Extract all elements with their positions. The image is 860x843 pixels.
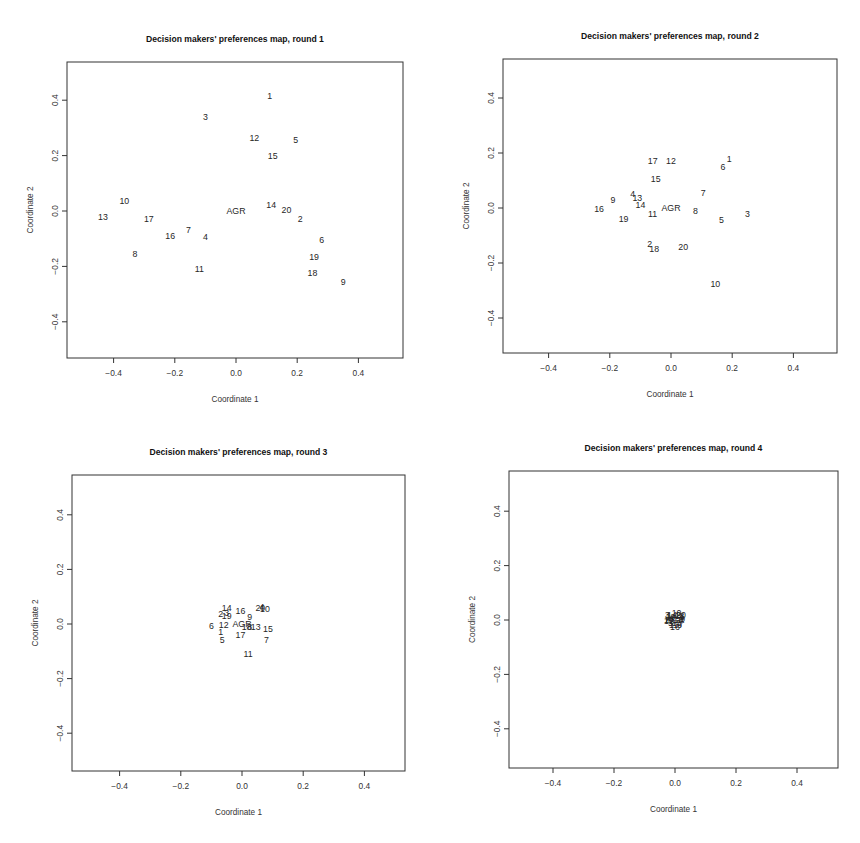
y-tick-label: −0.4 bbox=[492, 720, 502, 737]
x-tick-label: 0.4 bbox=[788, 363, 800, 373]
decision-maker-point-label: 6 bbox=[721, 162, 726, 172]
x-tick-label: −0.2 bbox=[173, 781, 190, 791]
y-axis-label: Coordinate 2 bbox=[468, 596, 477, 643]
y-tick-label: 0.4 bbox=[486, 92, 496, 104]
decision-maker-point-label: 19 bbox=[666, 612, 676, 622]
x-tick-label: 0.0 bbox=[230, 368, 242, 378]
y-axis-label: Coordinate 2 bbox=[31, 599, 40, 646]
x-axis-label: Coordinate 1 bbox=[215, 808, 262, 817]
decision-maker-point-label: 17 bbox=[236, 630, 246, 640]
decision-maker-point-label: 9 bbox=[610, 195, 615, 205]
decision-maker-point-label: 3 bbox=[745, 209, 750, 219]
y-tick-label: −0.2 bbox=[492, 666, 502, 683]
scatter-plot-round3: Decision makers' preferences map, round … bbox=[0, 420, 430, 843]
y-tick-label: 0.4 bbox=[50, 94, 60, 106]
x-tick-label: 0.2 bbox=[726, 363, 738, 373]
decision-maker-point-label: 4 bbox=[203, 232, 208, 242]
y-axis-label: Coordinate 2 bbox=[26, 186, 35, 233]
decision-maker-point-label: 16 bbox=[165, 231, 175, 241]
x-tick-label: −0.2 bbox=[602, 363, 619, 373]
decision-maker-point-label: 16 bbox=[594, 204, 604, 214]
y-tick-label: 0.2 bbox=[486, 147, 496, 159]
decision-maker-point-label: 1 bbox=[727, 154, 732, 164]
x-tick-label: 0.2 bbox=[297, 781, 309, 791]
decision-maker-point-label: 19 bbox=[309, 252, 319, 262]
x-tick-label: 0.2 bbox=[291, 368, 303, 378]
decision-maker-point-label: 6 bbox=[319, 235, 324, 245]
decision-maker-point-label: 5 bbox=[719, 215, 724, 225]
x-tick-label: −0.4 bbox=[545, 778, 562, 788]
decision-maker-point-label: 12 bbox=[249, 133, 259, 143]
decision-maker-point-label: 18 bbox=[649, 244, 659, 254]
x-tick-label: −0.4 bbox=[540, 363, 557, 373]
chart-panel-round3: Decision makers' preferences map, round … bbox=[0, 420, 430, 843]
aggregate-point-label: AGR bbox=[226, 206, 245, 216]
x-axis-label: Coordinate 1 bbox=[212, 395, 259, 404]
decision-maker-point-label: 5 bbox=[293, 135, 298, 145]
aggregate-point-label: AGR bbox=[661, 203, 680, 213]
decision-maker-point-label: 1 bbox=[267, 91, 272, 101]
decision-maker-point-label: 11 bbox=[195, 264, 204, 274]
x-tick-label: 0.4 bbox=[359, 781, 371, 791]
decision-maker-point-label: 15 bbox=[651, 174, 661, 184]
y-tick-label: −0.4 bbox=[50, 313, 60, 330]
decision-maker-point-label: 11 bbox=[244, 649, 253, 659]
decision-maker-point-label: 7 bbox=[264, 635, 269, 645]
decision-maker-point-label: 20 bbox=[678, 242, 688, 252]
x-tick-label: 0.2 bbox=[730, 778, 742, 788]
y-tick-label: −0.2 bbox=[50, 258, 60, 275]
y-axis-label: Coordinate 2 bbox=[462, 182, 471, 229]
x-tick-label: −0.4 bbox=[111, 781, 128, 791]
decision-maker-point-label: 2 bbox=[298, 214, 303, 224]
decision-maker-point-label: 12 bbox=[666, 156, 676, 166]
y-tick-label: 0.4 bbox=[492, 505, 502, 517]
x-tick-label: −0.2 bbox=[606, 778, 623, 788]
y-tick-label: 0.2 bbox=[55, 563, 65, 575]
decision-maker-point-label: 18 bbox=[308, 268, 318, 278]
decision-maker-point-label: 7 bbox=[701, 188, 706, 198]
decision-maker-point-label: 13 bbox=[98, 212, 108, 222]
decision-maker-point-label: 10 bbox=[260, 604, 270, 614]
y-tick-label: 0.2 bbox=[492, 559, 502, 571]
x-tick-label: 0.0 bbox=[665, 363, 677, 373]
decision-maker-point-label: 9 bbox=[341, 277, 346, 287]
chart-panel-round2: Decision makers' preferences map, round … bbox=[430, 0, 860, 420]
decision-maker-point-label: 8 bbox=[133, 249, 138, 259]
y-tick-label: −0.2 bbox=[486, 254, 496, 271]
decision-maker-point-label: 3 bbox=[224, 608, 229, 618]
y-tick-label: 0.0 bbox=[55, 618, 65, 630]
decision-maker-point-label: 19 bbox=[619, 214, 629, 224]
y-tick-label: 0.4 bbox=[55, 509, 65, 521]
decision-maker-point-label: 10 bbox=[119, 196, 129, 206]
decision-maker-point-label: 7 bbox=[186, 225, 191, 235]
y-tick-label: −0.4 bbox=[55, 725, 65, 742]
decision-maker-point-label: 14 bbox=[636, 200, 646, 210]
scatter-plot-round4: Decision makers' preferences map, round … bbox=[430, 420, 860, 843]
chart-title: Decision makers' preferences map, round … bbox=[146, 34, 324, 44]
x-axis-label: Coordinate 1 bbox=[647, 390, 694, 399]
decision-maker-point-label: 14 bbox=[266, 200, 276, 210]
y-tick-label: 0.2 bbox=[50, 149, 60, 161]
decision-maker-point-label: 20 bbox=[676, 610, 686, 620]
y-tick-label: 0.0 bbox=[492, 614, 502, 626]
y-tick-label: 0.0 bbox=[486, 202, 496, 214]
chart-panel-round4: Decision makers' preferences map, round … bbox=[430, 420, 860, 843]
decision-maker-point-label: 11 bbox=[648, 209, 657, 219]
y-tick-label: −0.2 bbox=[55, 670, 65, 687]
x-tick-label: 0.4 bbox=[353, 368, 365, 378]
decision-maker-point-label: 6 bbox=[209, 621, 214, 631]
decision-maker-point-label: 15 bbox=[263, 624, 273, 634]
decision-maker-point-label: 16 bbox=[236, 606, 246, 616]
chart-title: Decision makers' preferences map, round … bbox=[581, 31, 759, 41]
scatter-plot-round1: Decision makers' preferences map, round … bbox=[0, 0, 430, 420]
decision-maker-point-label: 17 bbox=[144, 214, 154, 224]
scatter-plot-round2: Decision makers' preferences map, round … bbox=[430, 0, 860, 420]
x-tick-label: 0.0 bbox=[669, 778, 681, 788]
x-axis-label: Coordinate 1 bbox=[650, 805, 697, 814]
chart-title: Decision makers' preferences map, round … bbox=[585, 443, 763, 453]
y-tick-label: −0.4 bbox=[486, 309, 496, 326]
decision-maker-point-label: 20 bbox=[282, 205, 292, 215]
chart-title: Decision makers' preferences map, round … bbox=[150, 447, 328, 457]
decision-maker-point-label: 5 bbox=[220, 635, 225, 645]
decision-maker-point-label: 17 bbox=[648, 156, 658, 166]
